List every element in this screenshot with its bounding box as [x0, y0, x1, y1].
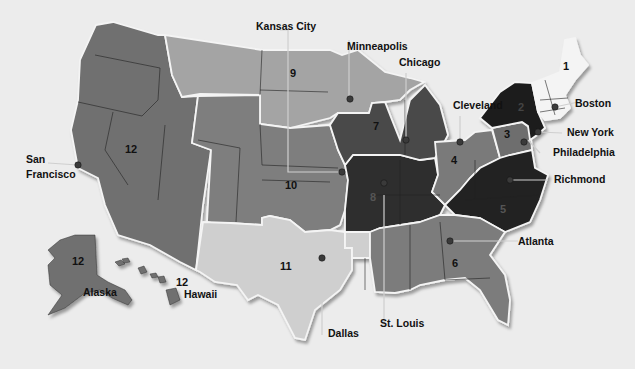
- dot-san-francisco: [75, 162, 81, 168]
- district-5-label: 5: [500, 203, 506, 215]
- city-label-san-francisco-2: Francisco: [26, 168, 76, 180]
- dot-dallas: [319, 255, 325, 261]
- alaska-shape[interactable]: [48, 235, 132, 315]
- city-label-philadelphia: Philadelphia: [553, 146, 615, 158]
- city-label-cleveland: Cleveland: [453, 99, 503, 111]
- dot-kansas-city: [339, 169, 345, 175]
- district-3-label: 3: [504, 128, 510, 140]
- district-12-alaska-label: 12: [72, 255, 84, 267]
- district-12-hawaii-label: 12: [176, 276, 188, 288]
- dot-st-louis: [381, 180, 387, 186]
- city-label-dallas: Dallas: [328, 327, 359, 339]
- dot-atlanta: [447, 238, 453, 244]
- city-label-new-york: New York: [567, 126, 614, 138]
- region-label-hawaii: Hawaii: [184, 288, 217, 300]
- city-label-chicago: Chicago: [399, 56, 440, 68]
- district-6-label: 6: [452, 257, 458, 269]
- district-2-label: 2: [518, 101, 524, 113]
- dot-cleveland: [457, 139, 463, 145]
- district-7-label: 7: [373, 120, 379, 132]
- district-12-label: 12: [125, 143, 137, 155]
- city-label-boston: Boston: [575, 97, 611, 109]
- dot-minneapolis: [347, 96, 353, 102]
- city-label-atlanta: Atlanta: [518, 235, 554, 247]
- dot-new-york: [535, 129, 541, 135]
- dot-chicago: [403, 137, 409, 143]
- dot-philadelphia: [521, 139, 527, 145]
- district-9-label: 9: [290, 67, 296, 79]
- district-4-label: 4: [451, 154, 458, 166]
- fed-district-map: 1 2 3 4 5 6 7 8 9 10 11 12 12 12 San Fra…: [0, 0, 635, 369]
- city-label-st-louis: St. Louis: [380, 317, 424, 329]
- district-11-region[interactable]: [196, 216, 352, 340]
- dot-boston: [552, 104, 558, 110]
- city-label-minneapolis: Minneapolis: [347, 40, 408, 52]
- city-label-san-francisco-1: San: [26, 153, 45, 165]
- district-8-label: 8: [370, 191, 376, 203]
- city-label-kansas-city: Kansas City: [256, 20, 316, 32]
- district-1-label: 1: [563, 60, 569, 72]
- district-11-label: 11: [280, 260, 292, 272]
- district-10-label: 10: [285, 179, 297, 191]
- region-label-alaska: Alaska: [83, 286, 117, 298]
- dot-richmond: [507, 177, 513, 183]
- city-label-richmond: Richmond: [554, 173, 605, 185]
- district-6-region[interactable]: [370, 215, 510, 325]
